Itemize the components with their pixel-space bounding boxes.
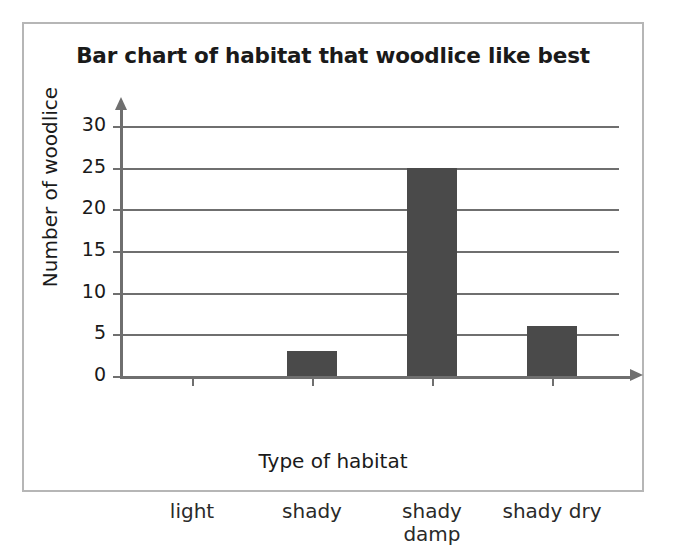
x-axis-arrow-icon [630, 369, 643, 381]
y-tick [113, 126, 122, 128]
x-tick-label-line: shady [246, 500, 378, 523]
x-tick-label-shady-dry: shady dry [486, 500, 618, 523]
x-tick-label-shady-damp: shadydamp [366, 500, 498, 546]
x-tick [312, 378, 314, 386]
bar-shady-damp [407, 168, 457, 376]
gridline [122, 126, 619, 128]
plot-area: 051015202530 lightshadyshadydampshady dr… [122, 118, 624, 376]
y-tick [113, 168, 122, 170]
x-tick-label-line: light [126, 500, 258, 523]
x-axis-line [120, 376, 632, 379]
y-tick-label: 25 [64, 157, 106, 176]
x-axis-title: Type of habitat [22, 449, 644, 473]
gridline [122, 293, 619, 295]
x-tick [432, 378, 434, 386]
y-tick [113, 293, 122, 295]
x-tick [552, 378, 554, 386]
y-tick-label: 5 [64, 323, 106, 342]
x-tick-label-light: light [126, 500, 258, 523]
y-axis-arrow-icon [115, 97, 127, 110]
y-tick-label: 30 [64, 115, 106, 134]
chart-title: Bar chart of habitat that woodlice like … [22, 43, 644, 68]
y-axis-title: Number of woodlice [38, 67, 62, 307]
gridline [122, 251, 619, 253]
y-tick-label: 15 [64, 240, 106, 259]
x-tick-label-line: damp [366, 523, 498, 546]
y-tick-label: 20 [64, 198, 106, 217]
x-tick [192, 378, 194, 386]
x-tick-label-line: shady [366, 500, 498, 523]
y-tick [113, 209, 122, 211]
y-tick [113, 334, 122, 336]
x-tick-label-line: shady dry [486, 500, 618, 523]
y-tick [113, 251, 122, 253]
gridline [122, 168, 619, 170]
y-tick-label: 10 [64, 282, 106, 301]
bar-shady [287, 351, 337, 376]
gridline [122, 209, 619, 211]
x-tick-label-shady: shady [246, 500, 378, 523]
bar-shady-dry [527, 326, 577, 376]
y-tick-label: 0 [64, 365, 106, 384]
